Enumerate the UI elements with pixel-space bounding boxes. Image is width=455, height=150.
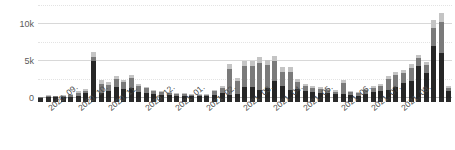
- bar[interactable]: [242, 61, 247, 98]
- bar[interactable]: [341, 80, 346, 98]
- bar-segment-segment-dark: [242, 87, 247, 98]
- x-axis-tick: [167, 98, 172, 102]
- x-axis-tick: [197, 98, 202, 102]
- x-axis-tick: [333, 98, 338, 102]
- y-axis-tick-label: 10k: [19, 19, 34, 29]
- x-axis-tick: [439, 98, 444, 102]
- bar[interactable]: [431, 20, 436, 98]
- x-axis-tick: [235, 98, 240, 102]
- bar-segment-segment-medium: [272, 61, 277, 81]
- bar-segment-segment-light: [439, 13, 444, 22]
- stacked-bar-chart: 05k10k 2020. 09.2020. 10.2020. 11.2020. …: [0, 0, 455, 150]
- x-axis-tick: [393, 98, 398, 102]
- bar-segment-segment-dark: [446, 91, 451, 98]
- bar[interactable]: [439, 13, 444, 98]
- bar-segment-segment-medium: [257, 63, 262, 89]
- bar[interactable]: [144, 87, 149, 98]
- x-axis-tick: [446, 98, 451, 102]
- x-axis-tick: [295, 98, 300, 102]
- bar-segment-segment-medium: [280, 72, 285, 86]
- bar-segment-segment-dark: [106, 91, 111, 98]
- bar-segment-segment-medium: [409, 68, 414, 81]
- x-axis-tick: [325, 98, 330, 102]
- y-axis-labels: 05k10k: [0, 6, 36, 98]
- bar[interactable]: [303, 84, 308, 98]
- x-axis-tick: [227, 98, 232, 102]
- x-axis-tick: [38, 98, 43, 102]
- bar-segment-segment-medium: [401, 73, 406, 83]
- bar-segment-segment-medium: [431, 28, 436, 46]
- bar-segment-segment-light: [431, 20, 436, 28]
- bar-segment-segment-dark: [303, 91, 308, 98]
- x-axis-tick: [129, 98, 134, 102]
- y-axis-tick-label: 0: [29, 93, 34, 103]
- bar[interactable]: [333, 90, 338, 98]
- y-axis-tick-label: 5k: [24, 56, 34, 66]
- bar[interactable]: [446, 86, 451, 98]
- bar-segment-segment-medium: [341, 83, 346, 94]
- x-axis-tick: [363, 98, 368, 102]
- bar-segment-segment-medium: [250, 66, 255, 87]
- bar[interactable]: [272, 56, 277, 98]
- x-axis-tick: [265, 98, 270, 102]
- x-axis-tick: [424, 98, 429, 102]
- x-axis-labels: 2020. 09.2020. 10.2020. 11.2020. 12.2021…: [38, 103, 452, 150]
- bar-segment-segment-medium: [242, 66, 247, 87]
- bar-segment-segment-medium: [416, 58, 421, 67]
- x-axis-tick: [99, 98, 104, 102]
- bar-segment-segment-dark: [439, 53, 444, 98]
- bar-segment-segment-medium: [424, 65, 429, 73]
- bar[interactable]: [401, 70, 406, 98]
- x-axis-tick: [136, 98, 141, 102]
- bar-segment-segment-medium: [114, 79, 119, 87]
- bar-segment-segment-medium: [439, 22, 444, 53]
- x-axis-tick: [431, 98, 436, 102]
